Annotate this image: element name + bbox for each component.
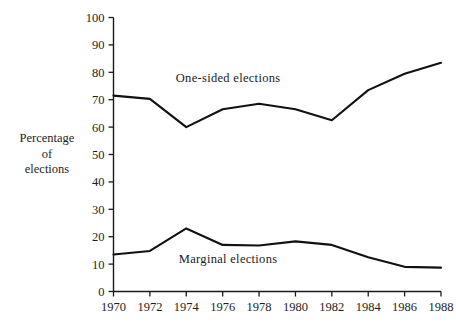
x-axis-tick-label: 1976 <box>210 300 235 314</box>
y-axis-tick-label: 50 <box>92 148 105 162</box>
x-axis-tick-label: 1970 <box>101 300 126 314</box>
x-axis-tick-label: 1984 <box>356 300 382 314</box>
line-chart-plot: 0102030405060708090100 19701972197419761… <box>0 0 456 326</box>
x-axis-tick-label: 1986 <box>392 300 417 314</box>
series-label: One-sided elections <box>176 71 281 85</box>
x-axis: 1970197219741976197819801982198419861988 <box>101 292 454 314</box>
y-axis: 0102030405060708090100 <box>86 11 114 299</box>
series-label: Marginal elections <box>179 252 278 266</box>
chart-figure: Percentage of elections 0102030405060708… <box>0 0 456 326</box>
y-axis-tick-label: 0 <box>98 285 104 299</box>
y-axis-tick-label: 30 <box>92 203 105 217</box>
y-axis-tick-label: 90 <box>92 38 105 52</box>
x-axis-tick-label: 1988 <box>429 300 454 314</box>
y-axis-tick-label: 80 <box>92 66 105 80</box>
x-axis-tick-label: 1974 <box>174 300 200 314</box>
data-series-group <box>114 63 442 268</box>
y-axis-tick-label: 100 <box>86 11 105 25</box>
y-axis-tick-label: 60 <box>92 121 105 135</box>
y-axis-tick-label: 20 <box>92 230 105 244</box>
y-axis-tick-label: 10 <box>92 258 105 272</box>
series-inline-labels: One-sided electionsMarginal elections <box>176 71 281 266</box>
x-axis-tick-label: 1980 <box>283 300 308 314</box>
x-axis-tick-label: 1972 <box>137 300 162 314</box>
x-axis-tick-label: 1978 <box>247 300 272 314</box>
x-axis-tick-label: 1982 <box>319 300 344 314</box>
y-axis-tick-label: 70 <box>92 93 105 107</box>
y-axis-tick-label: 40 <box>92 175 105 189</box>
